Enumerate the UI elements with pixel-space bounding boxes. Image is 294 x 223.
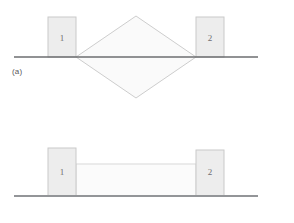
block-1-number: 1: [60, 33, 65, 43]
panel-a-label: (a): [12, 68, 22, 76]
block-2-number: 2: [208, 167, 213, 177]
rectangle-spring: [76, 164, 196, 196]
block-1-number: 1: [60, 167, 65, 177]
figure-container: 1 2 (a) 1 2 (b): [0, 0, 294, 223]
panel-b: 1 2 (b): [0, 112, 294, 223]
block-2-number: 2: [208, 33, 213, 43]
panel-a-drawing: 1 2: [0, 0, 294, 112]
panel-a: 1 2 (a): [0, 0, 294, 112]
panel-b-drawing: 1 2: [0, 112, 294, 223]
